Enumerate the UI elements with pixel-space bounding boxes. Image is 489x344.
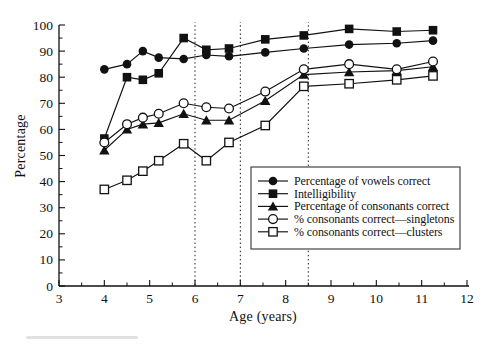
data-point-filled-circle bbox=[392, 39, 401, 48]
data-point-filled-circle bbox=[300, 44, 309, 53]
data-point-filled-square bbox=[392, 27, 401, 36]
data-point-filled-triangle bbox=[178, 109, 188, 118]
data-point-open-square bbox=[139, 167, 147, 175]
data-point-filled-square bbox=[154, 69, 163, 78]
data-point-filled-circle bbox=[345, 40, 354, 49]
y-tick-label: 70 bbox=[40, 96, 54, 111]
data-point-filled-triangle bbox=[260, 96, 270, 105]
y-tick-label: 80 bbox=[40, 70, 54, 85]
data-point-filled-circle bbox=[225, 52, 234, 61]
data-point-filled-square bbox=[123, 73, 132, 82]
data-point-open-circle bbox=[179, 99, 188, 108]
x-tick-label: 5 bbox=[146, 291, 153, 306]
data-point-open-square bbox=[179, 140, 187, 148]
data-point-open-circle bbox=[100, 138, 109, 147]
data-point-filled-circle bbox=[179, 55, 188, 64]
y-tick-label: 30 bbox=[40, 200, 54, 215]
data-point-filled-circle bbox=[261, 48, 270, 57]
y-tick-label: 50 bbox=[40, 148, 54, 163]
x-tick-label: 7 bbox=[237, 291, 244, 306]
y-tick-label: 60 bbox=[40, 122, 54, 137]
data-point-open-square bbox=[225, 138, 233, 146]
y-tick-label: 90 bbox=[40, 44, 54, 59]
data-point-filled-circle bbox=[429, 36, 438, 45]
series-line-2 bbox=[104, 67, 433, 151]
data-point-open-square bbox=[345, 80, 353, 88]
y-tick-label: 20 bbox=[40, 226, 54, 241]
data-point-open-square bbox=[100, 185, 108, 193]
data-point-filled-square bbox=[429, 26, 438, 35]
legend-marker-open-square bbox=[269, 228, 277, 236]
legend-marker-filled-circle bbox=[269, 177, 278, 186]
data-point-open-circle bbox=[154, 109, 163, 118]
caption-remnant-smudge bbox=[26, 336, 138, 339]
x-tick-label: 12 bbox=[460, 291, 474, 306]
data-point-filled-square bbox=[202, 45, 211, 54]
y-tick-label: 0 bbox=[46, 279, 53, 294]
legend-marker-filled-square bbox=[269, 189, 278, 198]
data-point-filled-circle bbox=[100, 65, 109, 74]
chart-canvas: 34567891011120102030405060708090100Perce… bbox=[0, 0, 489, 344]
x-axis-title: Age (years) bbox=[163, 309, 363, 325]
data-point-open-circle bbox=[123, 120, 132, 129]
data-point-open-circle bbox=[138, 113, 147, 122]
data-point-filled-circle bbox=[139, 47, 148, 56]
data-point-open-square bbox=[155, 157, 163, 165]
y-tick-label: 10 bbox=[40, 252, 54, 267]
data-point-filled-square bbox=[139, 76, 148, 85]
x-tick-label: 11 bbox=[415, 291, 428, 306]
legend-label-4: % consonants correct—clusters bbox=[294, 225, 443, 239]
x-tick-label: 10 bbox=[370, 291, 384, 306]
data-point-filled-square bbox=[179, 34, 188, 43]
data-point-open-circle bbox=[225, 104, 234, 113]
data-point-open-circle bbox=[345, 60, 354, 69]
data-point-filled-circle bbox=[154, 53, 163, 62]
data-point-open-circle bbox=[261, 87, 270, 96]
data-point-open-circle bbox=[202, 103, 211, 112]
data-point-open-circle bbox=[429, 57, 438, 66]
data-point-filled-square bbox=[345, 25, 354, 34]
data-point-filled-triangle bbox=[154, 118, 164, 127]
data-point-filled-circle bbox=[123, 60, 132, 69]
x-tick-label: 3 bbox=[56, 291, 63, 306]
data-point-open-square bbox=[300, 82, 308, 90]
y-tick-label: 40 bbox=[40, 174, 54, 189]
legend-marker-open-circle bbox=[269, 215, 278, 224]
data-point-open-circle bbox=[392, 65, 401, 74]
x-tick-label: 8 bbox=[282, 291, 289, 306]
y-tick-label: 100 bbox=[33, 18, 54, 33]
data-point-open-circle bbox=[299, 65, 308, 74]
data-point-open-square bbox=[202, 157, 210, 165]
data-point-filled-square bbox=[261, 35, 270, 44]
x-tick-label: 4 bbox=[101, 291, 108, 306]
x-tick-label: 6 bbox=[192, 291, 199, 306]
data-point-filled-square bbox=[300, 31, 309, 40]
data-point-open-square bbox=[393, 76, 401, 84]
x-tick-label: 9 bbox=[328, 291, 335, 306]
data-point-open-square bbox=[261, 121, 269, 129]
data-point-filled-square bbox=[225, 44, 234, 53]
figure: 34567891011120102030405060708090100Perce… bbox=[0, 0, 489, 344]
data-point-open-square bbox=[123, 176, 131, 184]
y-axis-title: Percentage bbox=[13, 86, 29, 206]
data-point-open-square bbox=[429, 72, 437, 80]
